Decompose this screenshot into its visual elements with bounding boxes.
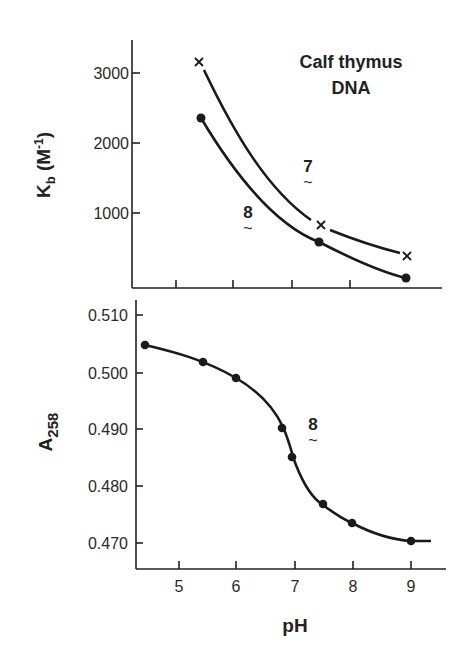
- data-point: [402, 274, 411, 283]
- data-point: [319, 500, 328, 509]
- x-marker-icon: [317, 221, 325, 229]
- data-point: [407, 537, 416, 546]
- data-point: [197, 114, 206, 123]
- data-point: [315, 238, 324, 247]
- bottom-x-tick-label: 6: [232, 578, 241, 595]
- bottom-y-tick-label: 0.490: [88, 421, 128, 438]
- top-y-axis-title: Kb (M-1): [32, 132, 58, 198]
- chart-figure: 3000 2000 1000 Kb (M-1) Calf thymus DNA …: [0, 0, 473, 667]
- bottom-y-tick-label: 0.480: [88, 478, 128, 495]
- bottom-y-tick-label: 0.500: [88, 365, 128, 382]
- bottom-x-tick-label: 7: [291, 578, 300, 595]
- tilde-icon: ~: [303, 174, 312, 191]
- data-point: [288, 453, 297, 462]
- data-point: [232, 374, 241, 383]
- data-point: [348, 519, 357, 528]
- tilde-icon: ~: [308, 432, 317, 449]
- bottom-panel: 0.510 0.500 0.490 0.480 0.470 5 6 7 8 9 …: [35, 300, 446, 636]
- top-panel: 3000 2000 1000 Kb (M-1) Calf thymus DNA …: [32, 40, 442, 288]
- bottom-x-tick-label: 8: [349, 578, 358, 595]
- data-point: [199, 358, 208, 367]
- series-8-curve: [201, 118, 406, 278]
- data-point: [141, 341, 150, 350]
- a258-curve: [145, 345, 431, 541]
- sample-annotation-line1: Calf thymus: [299, 52, 402, 72]
- x-marker-icon: [403, 252, 411, 260]
- tilde-icon: ~: [243, 220, 252, 237]
- bottom-y-tick-label: 0.510: [88, 307, 128, 324]
- bottom-x-tick-label: 5: [175, 578, 184, 595]
- data-point: [278, 424, 287, 433]
- bottom-y-tick-label: 0.470: [88, 535, 128, 552]
- top-y-tick-label: 2000: [93, 135, 129, 152]
- x-marker-icon: [195, 58, 203, 66]
- bottom-x-tick-label: 9: [407, 578, 416, 595]
- top-y-tick-label: 3000: [93, 65, 129, 82]
- series-8-markers: [197, 114, 411, 283]
- x-axis-title: pH: [282, 615, 307, 636]
- series-7-curve: [330, 230, 400, 253]
- a258-markers: [141, 341, 416, 546]
- sample-annotation-line2: DNA: [332, 78, 371, 98]
- top-y-tick-label: 1000: [93, 205, 129, 222]
- bottom-y-axis-title: A258: [35, 413, 61, 452]
